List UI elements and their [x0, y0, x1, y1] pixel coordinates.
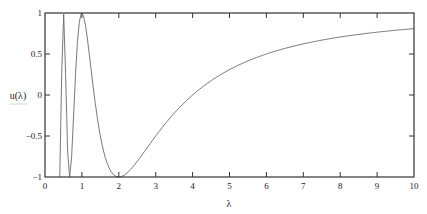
x-tick-label: 7	[301, 181, 306, 191]
y-axis-label: u(λ)	[10, 90, 27, 102]
line-chart: 012345678910 10.50−0.5−1 λ u(λ)	[0, 0, 427, 214]
x-tick-label: 6	[264, 181, 269, 191]
x-tick-label: 2	[117, 181, 122, 191]
x-axis-label: λ	[227, 198, 232, 209]
curve-layer	[60, 13, 414, 177]
y-axis-ticks: 10.50−0.5−1	[26, 8, 414, 182]
x-tick-label: 5	[227, 181, 232, 191]
x-tick-label: 3	[153, 181, 158, 191]
x-tick-label: 4	[190, 181, 195, 191]
x-tick-label: 8	[338, 181, 343, 191]
y-tick-label: −1	[32, 172, 42, 182]
plot-frame	[45, 13, 414, 177]
y-tick-label: 0.5	[31, 49, 43, 59]
x-axis-ticks: 012345678910	[43, 13, 419, 191]
x-tick-label: 10	[410, 181, 420, 191]
y-tick-label: −0.5	[26, 131, 43, 141]
x-tick-label: 9	[375, 181, 380, 191]
series-line	[60, 13, 414, 177]
y-tick-label: 1	[38, 8, 43, 18]
x-tick-label: 0	[43, 181, 48, 191]
x-tick-label: 1	[80, 181, 85, 191]
y-tick-label: 0	[38, 90, 43, 100]
